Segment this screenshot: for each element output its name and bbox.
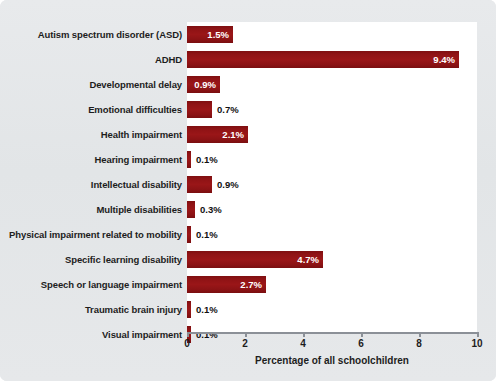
x-axis-tick-label: 10	[471, 338, 482, 349]
category-label: Multiple disabilities	[96, 201, 182, 218]
bar-value-label: 0.7%	[217, 101, 239, 118]
x-axis-tick-label: 0	[184, 338, 190, 349]
x-axis-tick	[477, 332, 479, 337]
bar-container: 0.1%	[187, 226, 191, 243]
x-axis-tick	[187, 332, 189, 337]
bar-row: Traumatic brain injury0.1%	[0, 301, 496, 326]
bar-row: Physical impairment related to mobility0…	[0, 226, 496, 251]
category-label: Intellectual disability	[91, 176, 182, 193]
bar-row: Developmental delay0.9%	[0, 76, 496, 101]
bar-value-label: 0.1%	[196, 301, 218, 318]
category-label: Speech or language impairment	[41, 276, 182, 293]
bar-container: 2.1%	[187, 126, 248, 143]
bar-value-label: 0.1%	[196, 326, 218, 343]
bar-container: 4.7%	[187, 251, 323, 268]
bar-value-label: 2.1%	[222, 126, 244, 143]
bar[interactable]	[187, 51, 459, 68]
bar[interactable]	[187, 101, 212, 118]
bar-value-label: 9.4%	[433, 51, 455, 68]
bar-value-label: 0.1%	[196, 226, 218, 243]
bar-container: 0.1%	[187, 151, 191, 168]
bar-value-label: 4.7%	[297, 251, 319, 268]
bar[interactable]	[187, 151, 191, 168]
bar-value-label: 2.7%	[240, 276, 262, 293]
bar-row: Multiple disabilities0.3%	[0, 201, 496, 226]
category-label: Visual impairment	[102, 326, 182, 343]
bar-container: 9.4%	[187, 51, 459, 68]
x-axis-tick	[303, 332, 305, 337]
category-label: Physical impairment related to mobility	[9, 226, 182, 243]
bar-value-label: 0.9%	[217, 176, 239, 193]
x-axis-tick-label: 4	[300, 338, 306, 349]
bar-container: 0.9%	[187, 176, 212, 193]
bar[interactable]	[187, 301, 191, 318]
bar-row: Intellectual disability0.9%	[0, 176, 496, 201]
bar-value-label: 0.3%	[200, 201, 222, 218]
bar-value-label: 1.5%	[207, 26, 229, 43]
x-axis-tick-label: 8	[416, 338, 422, 349]
bar-container: 2.7%	[187, 276, 266, 293]
bar-container: 0.9%	[187, 76, 220, 93]
category-label: Autism spectrum disorder (ASD)	[38, 26, 182, 43]
category-label: Emotional difficulties	[88, 101, 182, 118]
bar-rows: Autism spectrum disorder (ASD)1.5%ADHD9.…	[0, 26, 496, 351]
x-axis-tick	[419, 332, 421, 337]
bar-value-label: 0.9%	[194, 76, 216, 93]
bar-row: ADHD9.4%	[0, 51, 496, 76]
x-axis-tick	[361, 332, 363, 337]
bar[interactable]	[187, 201, 195, 218]
x-axis-tick-label: 6	[358, 338, 364, 349]
x-axis: 0246810	[187, 332, 477, 334]
bar-container: 0.3%	[187, 201, 195, 218]
bar[interactable]	[187, 226, 191, 243]
category-label: ADHD	[155, 51, 182, 68]
bar-row: Specific learning disability4.7%	[0, 251, 496, 276]
x-axis-title: Percentage of all schoolchildren	[187, 355, 477, 366]
category-label: Developmental delay	[89, 76, 182, 93]
bar-container: 1.5%	[187, 26, 233, 43]
x-axis-tick	[245, 332, 247, 337]
category-label: Hearing impairment	[95, 151, 182, 168]
category-label: Health impairment	[101, 126, 182, 143]
chart-figure: Autism spectrum disorder (ASD)1.5%ADHD9.…	[0, 0, 496, 381]
bar-value-label: 0.1%	[196, 151, 218, 168]
bar[interactable]	[187, 176, 212, 193]
category-label: Specific learning disability	[65, 251, 182, 268]
x-axis-tick-label: 2	[242, 338, 248, 349]
bar-row: Hearing impairment0.1%	[0, 151, 496, 176]
bar-row: Emotional difficulties0.7%	[0, 101, 496, 126]
category-label: Traumatic brain injury	[85, 301, 182, 318]
bar-container: 0.1%	[187, 301, 191, 318]
bar-row: Health impairment2.1%	[0, 126, 496, 151]
bar-row: Speech or language impairment2.7%	[0, 276, 496, 301]
bar-container: 0.7%	[187, 101, 212, 118]
bar-row: Autism spectrum disorder (ASD)1.5%	[0, 26, 496, 51]
